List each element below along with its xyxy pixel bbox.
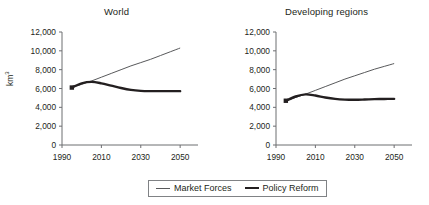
y-tick-label: 12,000 xyxy=(31,27,57,37)
y-tick-label: 4,000 xyxy=(35,102,56,112)
legend-label-market-forces: Market Forces xyxy=(174,183,232,193)
line-swatch-icon xyxy=(156,188,170,189)
y-tick-label: 6,000 xyxy=(249,84,270,94)
x-tick-label: 2030 xyxy=(132,152,151,162)
y-tick-label: 12,000 xyxy=(245,27,271,37)
plot-area-world: 02,0004,0006,0008,00010,00012,0001990201… xyxy=(0,0,215,175)
series-start-marker xyxy=(284,99,288,103)
line-swatch-icon xyxy=(245,187,259,189)
y-tick-label: 8,000 xyxy=(249,65,270,75)
y-tick-label: 8,000 xyxy=(35,65,56,75)
plot-area-developing-regions: 02,0004,0006,0008,00010,00012,0001990201… xyxy=(214,0,429,175)
legend-item-policy-reform[interactable]: Policy Reform xyxy=(245,183,319,193)
chart-legend: Market Forces Policy Reform xyxy=(148,180,327,197)
legend-label-policy-reform: Policy Reform xyxy=(263,183,319,193)
y-tick-label: 2,000 xyxy=(35,121,56,131)
x-tick-label: 2030 xyxy=(346,152,365,162)
x-tick-label: 2050 xyxy=(385,152,404,162)
y-tick-label: 0 xyxy=(51,140,56,150)
y-tick-label: 4,000 xyxy=(249,102,270,112)
y-tick-label: 10,000 xyxy=(245,46,271,56)
series-start-marker xyxy=(70,85,74,89)
y-tick-label: 10,000 xyxy=(31,46,57,56)
x-tick-label: 1990 xyxy=(267,152,286,162)
legend-item-market-forces[interactable]: Market Forces xyxy=(156,183,232,193)
x-tick-label: 2010 xyxy=(92,152,111,162)
chart-panel-world: World km3 02,0004,0006,0008,00010,00012,… xyxy=(0,0,215,175)
x-tick-label: 2010 xyxy=(306,152,325,162)
x-tick-label: 2050 xyxy=(171,152,190,162)
y-tick-label: 0 xyxy=(265,140,270,150)
series-line-policy-reform xyxy=(72,82,180,91)
y-tick-label: 2,000 xyxy=(249,121,270,131)
figure-root: World km3 02,0004,0006,0008,00010,00012,… xyxy=(0,0,429,205)
y-tick-label: 6,000 xyxy=(35,84,56,94)
x-tick-label: 1990 xyxy=(53,152,72,162)
chart-panel-developing-regions: Developing regions 02,0004,0006,0008,000… xyxy=(214,0,429,175)
series-line-policy-reform xyxy=(286,94,394,100)
